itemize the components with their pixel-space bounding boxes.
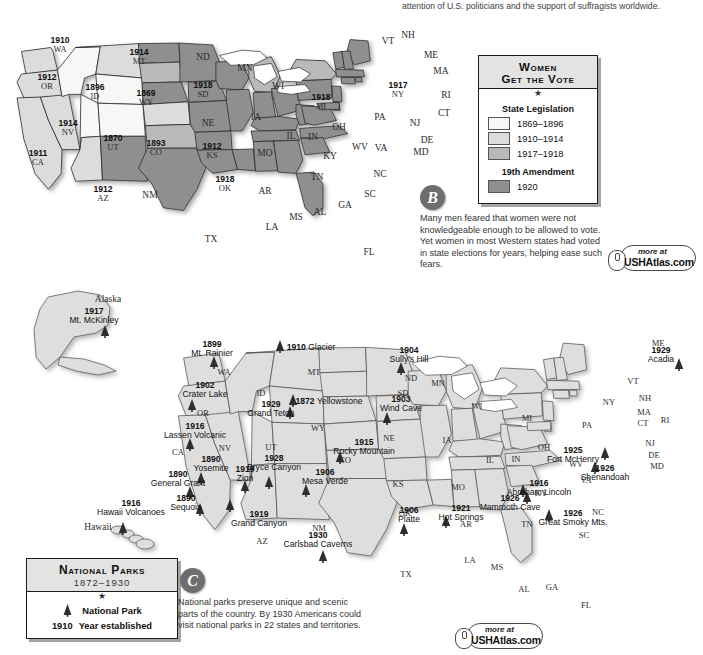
- park-year: 1890: [151, 470, 205, 479]
- parks-region-label-pa: PA: [582, 421, 592, 430]
- park-label-sequoia: 1890Sequoia: [170, 494, 202, 512]
- parks-region-label-ia: IA: [443, 436, 452, 445]
- park-name: Lassen Volcanic: [164, 431, 226, 440]
- park-label-abraham-lincoln: 1916Abraham Lincoln: [507, 479, 572, 497]
- parks-region-label-ms: MS: [491, 563, 503, 572]
- park-year: 1872: [295, 396, 317, 406]
- park-year: 1910: [287, 342, 309, 352]
- park-name: Grand Canyon: [231, 519, 287, 528]
- park-year: 1926: [480, 494, 541, 503]
- park-label-sully-s-hill: 1904Sully's Hill: [390, 346, 429, 364]
- parks-legend-row-symbol: National Park: [36, 604, 168, 617]
- park-year: 1903: [380, 395, 422, 404]
- caption-parks: National parks preserve unique and sceni…: [178, 597, 368, 632]
- park-year: 1925: [547, 446, 599, 455]
- parks-region-label-hawaii: Hawaii: [84, 523, 111, 533]
- park-label-bryce-canyon: 1928Bryce Canyon: [247, 454, 301, 472]
- park-label-grand-canyon: 1919Grand Canyon: [231, 510, 287, 528]
- park-name: Platte: [398, 515, 420, 524]
- park-name: Mammoth Cave: [480, 503, 541, 512]
- park-year: 1919: [235, 465, 254, 474]
- parks-region-label-mi: MI: [522, 414, 532, 423]
- badge-c: C: [180, 568, 205, 593]
- parks-region-label-ky: KY: [535, 489, 547, 498]
- parks-region-label-alaska: Alaska: [95, 295, 121, 305]
- parks-region-label-nv: NV: [219, 444, 231, 453]
- park-name: Zion: [235, 474, 254, 483]
- parks-region-label-me: ME: [652, 339, 665, 348]
- park-year: 1929: [648, 346, 674, 355]
- park-year: 1899: [191, 340, 233, 349]
- park-year: 1890: [193, 455, 228, 464]
- park-name: Shenandoah: [581, 473, 630, 482]
- park-year: 1926: [581, 464, 630, 473]
- park-name: Yellowstone: [317, 396, 363, 406]
- parks-region-label-ne: NE: [383, 434, 394, 443]
- pine-tree-icon: [62, 604, 73, 617]
- stamp-url-text: USHAtlas.com: [471, 634, 541, 646]
- park-name: Mt. McKinley: [69, 316, 118, 325]
- park-label-rocky-mountain: 1915Rocky Mountain: [333, 438, 395, 456]
- parks-legend-row-year: 1910 Year established: [36, 621, 168, 631]
- parks-region-label-oh: OH: [538, 443, 550, 452]
- ushatlas-stamp-bottom[interactable]: more at USHAtlas.com: [455, 623, 541, 648]
- parks-region-label-va: VA: [580, 476, 591, 485]
- park-label-grand-teton: 1929Grand Teton: [247, 400, 294, 418]
- parks-region-label-az: AZ: [256, 537, 267, 546]
- park-label-hawaii-volcanoes: 1916Hawaii Volcanoes: [97, 499, 165, 517]
- parks-region-label-il: IL: [486, 456, 494, 465]
- park-name: Rocky Mountain: [333, 447, 395, 456]
- park-name: Crater Lake: [183, 390, 228, 399]
- park-year: 1906: [302, 468, 348, 477]
- park-year: 1926: [539, 509, 608, 518]
- park-year: 1916: [97, 499, 165, 508]
- park-name: Sequoia: [170, 503, 202, 512]
- park-year: 1921: [439, 504, 484, 513]
- park-label-crater-lake: 1902Crater Lake: [183, 381, 228, 399]
- park-label-fort-mchenry: 1925Fort McHenry: [547, 446, 599, 464]
- park-label-mt-mckinley: 1917Mt. McKinley: [69, 307, 118, 325]
- parks-region-label-nj: NJ: [645, 439, 654, 448]
- parks-region-label-mt: MT: [308, 368, 321, 377]
- parks-legend-header: National Parks 1872–1930: [27, 559, 177, 592]
- park-label-yellowstone: 1872 Yellowstone: [295, 391, 362, 408]
- parks-region-label-tn: TN: [521, 520, 532, 529]
- park-year: 1904: [390, 346, 429, 355]
- parks-region-label-sc: SC: [579, 531, 589, 540]
- parks-region-label-mn: MN: [431, 379, 445, 388]
- parks-region-label-ma: MA: [637, 408, 651, 417]
- parks-region-label-nd: ND: [405, 374, 417, 383]
- parks-legend-title: National Parks: [33, 563, 171, 577]
- parks-region-label-ri: RI: [661, 416, 670, 425]
- park-name: Mesa Verde: [302, 477, 348, 486]
- parks-region-label-tx: TX: [400, 570, 411, 579]
- park-year: 1928: [247, 454, 301, 463]
- park-year: 1929: [247, 400, 294, 409]
- parks-region-label-fl: FL: [581, 601, 591, 610]
- park-name: Hawaii Volcanoes: [97, 508, 165, 517]
- parks-region-label-md: MD: [650, 462, 664, 471]
- parks-legend-symbol-label: National Park: [82, 606, 141, 616]
- parks-region-label-ny: NY: [603, 398, 615, 407]
- parks-region-label-ga: GA: [546, 583, 558, 592]
- park-label-carlsbad-caverns: 1930Carlsbad Caverns: [284, 531, 353, 549]
- park-name: Hot Springs: [439, 513, 484, 522]
- park-name: Glacier: [308, 342, 335, 352]
- park-name: Carlsbad Caverns: [284, 540, 353, 549]
- legend-national-parks: National Parks 1872–1930 ★ National Park…: [26, 558, 178, 639]
- park-year: 1916: [507, 479, 572, 488]
- park-year: 1916: [164, 422, 226, 431]
- parks-region-label-ks: KS: [393, 480, 404, 489]
- park-label-lassen-volcanic: 1916Lassen Volcanic: [164, 422, 226, 440]
- parks-region-label-ct: CT: [638, 419, 649, 428]
- park-label-great-smoky-mts-: 1926Great Smoky Mts.: [539, 509, 608, 527]
- park-name: Yosemite: [193, 464, 228, 473]
- park-name: Sully's Hill: [390, 355, 429, 364]
- park-year: 1890: [170, 494, 202, 503]
- park-year: 1930: [284, 531, 353, 540]
- parks-region-label-wy: WY: [311, 424, 325, 433]
- park-name: Acadia: [648, 355, 674, 364]
- parks-region-label-nh: NH: [639, 394, 651, 403]
- stamp-more-text: more at: [485, 625, 514, 634]
- park-label-mt-rainier: 1899Mt. Rainier: [191, 340, 233, 358]
